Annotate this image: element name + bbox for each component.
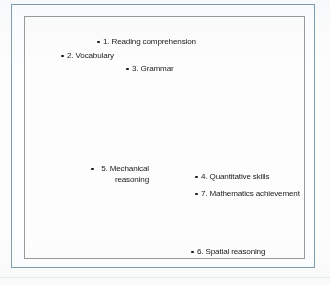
marker-dot-icon (91, 168, 94, 171)
data-point-1: 1. Reading comprehension (97, 37, 196, 48)
data-point-7: 7. Mathematics achievement (195, 189, 300, 200)
data-point-label-5-line2: reasoning (115, 175, 149, 184)
data-point-label-5-line1: 5. Mechanical (101, 164, 149, 173)
data-point-4: 4. Quantitative skills (195, 172, 269, 183)
data-point-2: 2. Vocabulary (61, 51, 114, 62)
marker-dot-icon (61, 55, 64, 58)
page-bottom-rule (0, 277, 330, 278)
figure-root: 1. Reading comprehension 2. Vocabulary 3… (0, 0, 330, 285)
data-point-label-2: 2. Vocabulary (67, 51, 114, 62)
marker-dot-icon (195, 193, 198, 196)
plot-area: 1. Reading comprehension 2. Vocabulary 3… (24, 16, 305, 259)
marker-dot-icon (195, 176, 198, 179)
data-point-label-4: 4. Quantitative skills (201, 172, 269, 183)
outer-figure-border: 1. Reading comprehension 2. Vocabulary 3… (11, 4, 315, 268)
data-point-5: 5. Mechanical reasoning (91, 164, 149, 185)
marker-dot-icon (126, 68, 129, 71)
marker-dot-icon (191, 251, 194, 254)
data-point-label-1: 1. Reading comprehension (103, 37, 196, 48)
data-point-3: 3. Grammar (126, 64, 174, 75)
data-point-label-6: 6. Spatial reasoning (197, 247, 265, 258)
data-point-label-3: 3. Grammar (132, 64, 174, 75)
data-point-6: 6. Spatial reasoning (191, 247, 265, 258)
data-point-label-7: 7. Mathematics achievement (201, 189, 300, 200)
data-point-label-5: 5. Mechanical reasoning (97, 164, 149, 185)
marker-dot-icon (97, 41, 100, 44)
